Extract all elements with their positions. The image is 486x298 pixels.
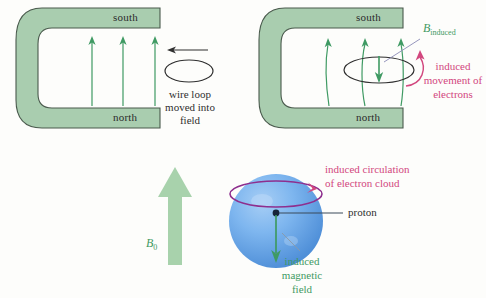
field-lines-group [325, 38, 405, 106]
magnet-body [16, 8, 160, 128]
b0-label: B0 [146, 237, 157, 253]
induced-field-arrow [375, 56, 383, 83]
electron-movement-arrowhead [416, 50, 425, 60]
circulation-caption-line-1: induced circulation [325, 163, 477, 175]
south-pole-label: south [356, 11, 381, 23]
wire-loop-caption-line-2: moved into [159, 101, 221, 113]
wire-loop-caption-line-1: wire loop [159, 88, 221, 100]
b0-subscript: 0 [153, 243, 157, 252]
north-pole-label: north [113, 111, 137, 123]
wire-loop-ellipse [165, 60, 213, 82]
loop-motion-arrow [167, 47, 208, 54]
field-line [362, 44, 365, 106]
b-induced-subscript: induced [430, 28, 455, 37]
electron-caption-line-3: electrons [421, 88, 485, 100]
b0-block-arrow [158, 167, 192, 265]
electron-caption-line-2: movement of [419, 74, 486, 86]
south-pole-label: south [113, 11, 138, 23]
induced-field-caption-line-2: magnetic [268, 269, 336, 281]
field-line [326, 44, 329, 106]
b-induced-label: Binduced [423, 22, 456, 38]
field-lines-group [88, 36, 158, 106]
north-pole-label: north [356, 111, 380, 123]
wire-loop-caption-line-3: field [159, 114, 221, 126]
atom-panel: B0 induced circulation of electron cloud… [0, 149, 486, 298]
induced-field-caption-line-3: field [268, 283, 336, 295]
magnet-body [259, 8, 403, 128]
figure-canvas: south north wire loop moved into field [0, 0, 486, 298]
field-line [401, 44, 403, 106]
circulation-caption-line-2: of electron cloud [325, 177, 477, 189]
left-magnet-panel: south north wire loop moved into field [0, 0, 243, 149]
induced-field-caption-line-1: induced [268, 255, 336, 267]
proton-label: proton [348, 206, 377, 218]
electron-caption-line-1: induced [421, 60, 485, 72]
right-magnet-panel: south north Binduced induced movement of… [243, 0, 486, 149]
